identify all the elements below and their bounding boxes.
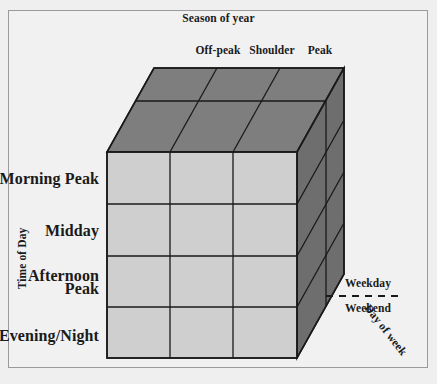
season-tick-peak: Peak <box>308 44 333 57</box>
time-row-label-midday-text: Midday <box>45 222 99 240</box>
season-axis-title: Season of year <box>0 12 437 25</box>
time-row-label-afternoon-peak-text-line2: Peak <box>65 280 99 298</box>
time-of-day-axis-title: Time of Day <box>16 208 29 308</box>
figure-container: .f-front { fill: #cfcfcf; stroke: #1a1a1… <box>0 0 437 384</box>
cube-front-face <box>107 152 297 358</box>
season-tick-off-peak: Off-peak <box>196 44 241 57</box>
time-row-label-morning-peak-text: Morning Peak <box>0 170 99 188</box>
season-tick-shoulder: Shoulder <box>249 44 295 57</box>
time-row-label-evening-night-text: Evening/Night <box>0 327 99 345</box>
day-of-week-label-weekday: Weekday <box>345 277 391 290</box>
